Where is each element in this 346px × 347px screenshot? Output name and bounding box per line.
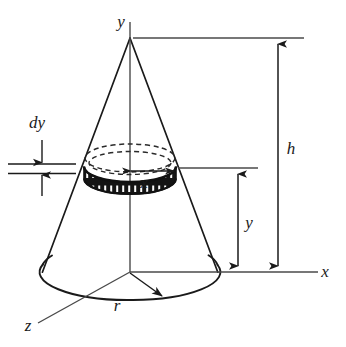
base-radius-label: r bbox=[114, 296, 121, 315]
h-label: h bbox=[287, 139, 296, 158]
diagram-canvas: y x z x dy bbox=[0, 0, 346, 347]
y-dimension-label: y bbox=[243, 213, 253, 232]
cone-volume-diagram: y x z x dy bbox=[0, 0, 346, 347]
y-axis-label: y bbox=[115, 12, 125, 31]
x-axis-label: x bbox=[320, 262, 329, 281]
z-axis-label: z bbox=[24, 316, 32, 335]
dy-label: dy bbox=[29, 113, 46, 132]
disk-radius-label: x bbox=[139, 173, 148, 192]
